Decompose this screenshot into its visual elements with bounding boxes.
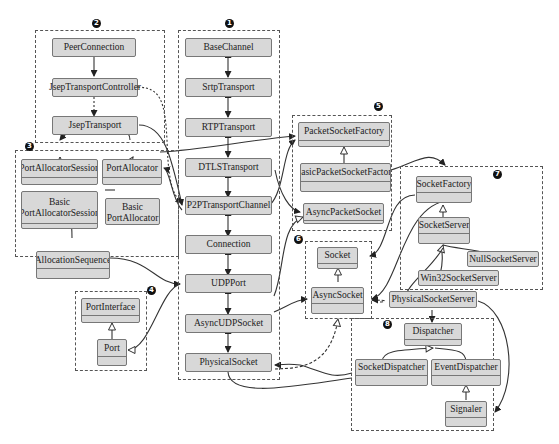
node-port-label: Port [98, 340, 126, 357]
basic-port-allocator-line1: Basic [122, 202, 143, 213]
badge-group-5: 5 [374, 102, 383, 111]
node-port-allocator-label: PortAllocator [103, 160, 161, 178]
node-dispatcher-label: Dispatcher [405, 324, 461, 340]
node-base-channel[interactable]: BaseChannel [185, 38, 272, 57]
badge-group-2: 2 [92, 19, 101, 28]
node-socket[interactable]: Socket [317, 247, 358, 269]
node-allocation-sequence-label: AllocationSequence [37, 252, 109, 269]
node-signaler-label: Signaler [446, 402, 486, 418]
node-port[interactable]: Port [97, 339, 127, 366]
node-srtp-transport[interactable]: SrtpTransport [185, 78, 272, 97]
node-socket-server[interactable]: SocketServer [418, 217, 470, 244]
node-jsep-transport[interactable]: JsepTransport [52, 116, 138, 135]
badge-group-7: 7 [493, 170, 502, 179]
node-port-allocator-session-label: PortAllocatorSession [22, 160, 97, 178]
node-packet-socket-factory-label: PacketSocketFactory [299, 123, 389, 141]
basic-port-allocator-session-line1: Basic [49, 197, 70, 208]
node-basic-port-allocator-session[interactable]: Basic PortAllocatorSession [21, 191, 98, 229]
node-physical-socket[interactable]: PhysicalSocket [185, 353, 272, 372]
node-socket-dispatcher[interactable]: SocketDispatcher [355, 359, 428, 386]
node-basic-packet-socket-factory[interactable]: BasicPacketSocketFactory [300, 163, 391, 192]
node-async-packet-socket[interactable]: AsyncPacketSocket [303, 203, 384, 224]
node-socket-label: Socket [318, 248, 357, 264]
node-async-udp-socket[interactable]: AsyncUDPSocket [185, 314, 272, 333]
node-udp-port[interactable]: UDPPort [185, 274, 272, 293]
node-dtls-transport[interactable]: DTLSTransport [185, 158, 272, 177]
node-socket-dispatcher-label: SocketDispatcher [356, 360, 427, 376]
node-jsep-transport-controller[interactable]: JsepTransportController [52, 78, 138, 97]
node-peer-connection[interactable]: PeerConnection [52, 38, 136, 57]
node-basic-packet-socket-factory-label: BasicPacketSocketFactory [301, 164, 390, 182]
badge-group-4: 4 [147, 286, 156, 295]
node-event-dispatcher-label: EventDispatcher [432, 360, 500, 376]
node-async-packet-socket-label: AsyncPacketSocket [304, 204, 383, 221]
badge-group-3: 3 [25, 142, 34, 151]
node-allocation-sequence[interactable]: AllocationSequence [36, 251, 110, 279]
node-connection[interactable]: Connection [185, 235, 272, 254]
node-port-allocator-session[interactable]: PortAllocatorSession [21, 159, 98, 185]
node-physical-socket-server[interactable]: PhysicalSocketServer [389, 291, 477, 308]
node-signaler[interactable]: Signaler [445, 401, 487, 427]
node-socket-factory-label: SocketFactory [417, 177, 471, 193]
node-packet-socket-factory[interactable]: PacketSocketFactory [298, 122, 390, 147]
basic-port-allocator-line2: PortAllocator [107, 213, 159, 224]
node-port-interface[interactable]: PortInterface [81, 298, 140, 323]
node-port-allocator[interactable]: PortAllocator [102, 159, 162, 185]
node-basic-port-allocator[interactable]: Basic PortAllocator [105, 198, 160, 225]
node-basic-port-allocator-session-label: Basic PortAllocatorSession [22, 192, 97, 224]
badge-group-8: 8 [383, 320, 392, 329]
node-null-socket-server[interactable]: NullSocketServer [467, 251, 539, 267]
badge-group-6: 6 [294, 235, 303, 244]
badge-group-1: 1 [225, 19, 234, 28]
node-port-interface-label: PortInterface [82, 299, 139, 316]
node-p2p-transport-channel[interactable]: P2PTransportChannel [185, 196, 272, 215]
node-async-socket-label: AsyncSocket [312, 288, 363, 304]
node-async-socket[interactable]: AsyncSocket [311, 287, 364, 314]
node-event-dispatcher[interactable]: EventDispatcher [431, 359, 501, 386]
node-dispatcher[interactable]: Dispatcher [404, 323, 462, 346]
node-socket-server-label: SocketServer [419, 218, 469, 234]
basic-port-allocator-session-line2: PortAllocatorSession [21, 208, 98, 219]
node-win32-socket-server[interactable]: Win32SocketServer [418, 270, 499, 286]
node-rtp-transport[interactable]: RTPTransport [185, 118, 272, 137]
node-socket-factory[interactable]: SocketFactory [416, 176, 472, 203]
node-basic-port-allocator-label: Basic PortAllocator [106, 199, 159, 225]
